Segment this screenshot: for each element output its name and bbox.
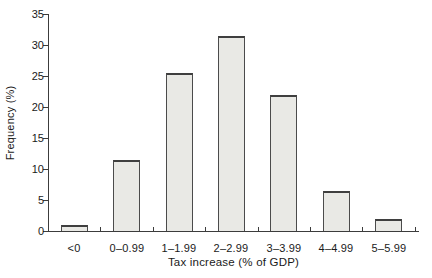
y-tick-label: 15	[14, 133, 44, 144]
y-tick-label: 20	[14, 102, 44, 113]
x-tick	[205, 227, 206, 231]
x-category-label: 2–2.99	[204, 243, 258, 254]
x-axis-line	[48, 231, 419, 232]
x-axis-title: Tax increase (% of GDP)	[48, 256, 419, 268]
x-tick	[310, 227, 311, 231]
y-tick-label: 5	[14, 195, 44, 206]
histogram-figure: Frequency (%) 05101520253035<00–0.991–1.…	[0, 0, 432, 278]
x-category-label: 3–3.99	[257, 243, 311, 254]
bar	[323, 191, 350, 231]
x-tick	[153, 227, 154, 231]
x-tick	[415, 227, 416, 231]
x-category-label: 4–4.99	[309, 243, 363, 254]
y-tick-label: 10	[14, 164, 44, 175]
bar	[375, 219, 402, 231]
x-tick	[100, 227, 101, 231]
y-tick-label: 30	[14, 40, 44, 51]
x-tick	[362, 227, 363, 231]
x-tick	[258, 227, 259, 231]
bar	[218, 36, 245, 231]
bar	[270, 95, 297, 231]
y-axis-line	[48, 14, 49, 232]
bar	[166, 73, 193, 231]
bar	[61, 225, 88, 231]
x-category-label: 1–1.99	[152, 243, 206, 254]
y-tick-label: 0	[14, 226, 44, 237]
bar	[113, 160, 140, 231]
y-tick-label: 25	[14, 71, 44, 82]
x-category-label: 0–0.99	[100, 243, 154, 254]
plot-area: 05101520253035<00–0.991–1.992–2.993–3.99…	[0, 0, 432, 278]
x-category-label: 5–5.99	[362, 243, 416, 254]
x-category-label: <0	[47, 243, 101, 254]
y-tick-label: 35	[14, 9, 44, 20]
